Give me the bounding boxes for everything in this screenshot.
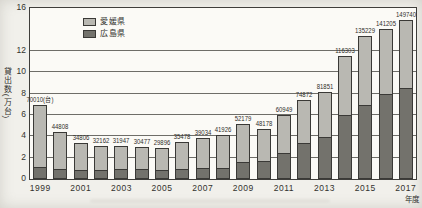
bar-segment-hiroshima-2006: [175, 169, 189, 179]
bar-segment-hiroshima-2002: [94, 170, 108, 179]
x-tick-label-2017: 2017: [395, 183, 416, 193]
bar-total-label-2008: 41926: [215, 126, 232, 133]
bar-segment-hiroshima-2003: [114, 169, 128, 179]
x-tick-label-2007: 2007: [192, 183, 213, 193]
y-tick-label-4: 4: [6, 131, 26, 140]
bar-segment-hiroshima-2015: [358, 105, 372, 179]
bar-segment-ehime-2014: [338, 56, 352, 117]
y-tick-label-10: 10: [6, 67, 26, 76]
bar-segment-hiroshima-2016: [379, 94, 393, 180]
bar-total-label-2011: 60949: [276, 106, 293, 113]
x-tick-label-2015: 2015: [355, 183, 376, 193]
bar-segment-ehime-2010: [257, 129, 271, 162]
bar-segment-ehime-2017: [399, 20, 413, 89]
bar-total-label-2001: 34806: [72, 134, 89, 141]
bar-segment-hiroshima-1999: [33, 167, 47, 179]
bar-segment-ehime-2006: [175, 142, 189, 170]
bar-segment-ehime-2000: [53, 132, 67, 170]
bar-total-label-2000: 44808: [52, 123, 69, 130]
x-tick-label-2011: 2011: [274, 183, 294, 193]
bar-total-label-2012: 74872: [296, 91, 313, 98]
bar-segment-hiroshima-2009: [236, 162, 250, 179]
bar-total-label-2006: 35478: [174, 133, 191, 140]
bar-segment-hiroshima-2017: [399, 88, 413, 179]
bar-segment-ehime-2012: [297, 100, 311, 144]
bar-total-label-2014: 116303: [335, 47, 355, 54]
x-tick-label-1999: 1999: [30, 183, 51, 193]
bar-segment-hiroshima-2005: [155, 170, 169, 179]
bar-total-label-2007: 39034: [194, 129, 211, 136]
bar-total-label-2005: 29896: [154, 139, 171, 146]
scanned-chart-page: 貸出数(万台) 70010(台)448083480632162319473047…: [0, 0, 422, 208]
x-tick-label-2009: 2009: [233, 183, 254, 193]
legend: 愛媛県 広島県: [83, 17, 126, 41]
bar-segment-hiroshima-2007: [196, 168, 210, 179]
bar-total-label-2002: 32162: [93, 137, 110, 144]
bar-segment-ehime-2004: [135, 147, 149, 170]
bar-total-label-2017: 149740: [396, 11, 416, 18]
bar-segment-hiroshima-2000: [53, 169, 67, 179]
x-tick-label-2001: 2001: [70, 183, 91, 193]
bar-segment-ehime-2015: [358, 36, 372, 107]
y-tick-label-0: 0: [6, 174, 26, 183]
bar-segment-hiroshima-2012: [297, 143, 311, 179]
plot-area: 70010(台)44808348063216231947304772989635…: [29, 7, 417, 180]
y-tick-label-2: 2: [6, 153, 26, 162]
bar-segment-ehime-2003: [114, 146, 128, 170]
bar-segment-hiroshima-2011: [277, 153, 291, 179]
bar-segment-ehime-2008: [216, 135, 230, 169]
legend-item-hiroshima: 広島県: [83, 29, 126, 38]
bar-segment-ehime-2007: [196, 138, 210, 168]
x-tick-label-2005: 2005: [152, 183, 173, 193]
ehime-color-swatch: [83, 18, 96, 26]
bar-segment-ehime-2001: [74, 143, 88, 172]
y-tick-label-12: 12: [6, 46, 26, 55]
bar-total-label-2016: 141205: [376, 20, 396, 27]
bar-total-label-2015: 135229: [355, 27, 375, 34]
bar-segment-hiroshima-2004: [135, 169, 149, 179]
bar-total-label-2009: 52179: [235, 115, 252, 122]
legend-item-ehime: 愛媛県: [83, 17, 126, 26]
bar-segment-hiroshima-2013: [318, 137, 332, 179]
bar-segment-ehime-2016: [379, 29, 393, 94]
x-axis-title: 年度: [405, 193, 419, 204]
bar-segment-hiroshima-2008: [216, 168, 230, 179]
hiroshima-color-swatch: [83, 30, 96, 38]
x-tick-label-2013: 2013: [314, 183, 335, 193]
bar-segment-hiroshima-2001: [74, 170, 88, 179]
bar-segment-ehime-2009: [236, 124, 250, 163]
legend-label-ehime: 愛媛県: [100, 17, 126, 26]
bar-total-label-2013: 81851: [316, 83, 333, 90]
x-tick-label-2003: 2003: [111, 183, 132, 193]
scan-bleedthrough-smudge: [90, 199, 330, 203]
y-tick-label-16: 16: [6, 3, 26, 12]
bar-total-label-2003: 31947: [113, 137, 130, 144]
bar-segment-ehime-2011: [277, 115, 291, 154]
bar-segment-hiroshima-2014: [338, 115, 352, 179]
bar-total-label-2010: 48178: [255, 120, 272, 127]
bar-total-label-2004: 30477: [133, 138, 150, 145]
bar-segment-hiroshima-2010: [257, 161, 271, 179]
legend-label-hiroshima: 広島県: [100, 29, 126, 38]
bar-total-label-1999: 70010(台): [27, 96, 54, 103]
bar-segment-ehime-2005: [155, 148, 169, 171]
bar-segment-ehime-2002: [94, 146, 108, 171]
y-tick-label-6: 6: [6, 110, 26, 119]
bar-segment-ehime-2013: [318, 92, 332, 137]
y-tick-label-8: 8: [6, 89, 26, 98]
bar-segment-ehime-1999: [33, 105, 47, 168]
